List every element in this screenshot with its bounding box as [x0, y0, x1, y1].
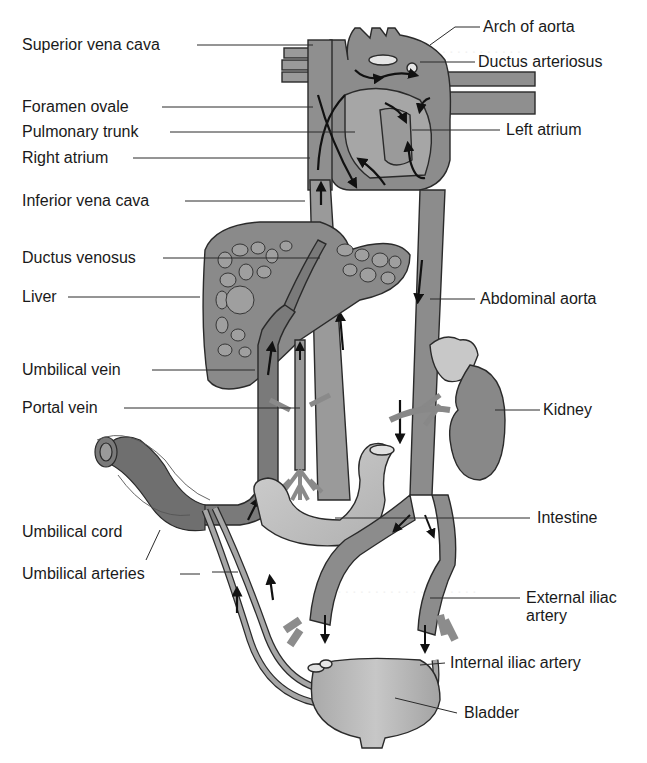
label-bladder: Bladder: [464, 704, 519, 722]
fetal-circulation-diagram: through a valve . . . . . . . . . . . . …: [0, 0, 647, 763]
label-portal-vein: Portal vein: [22, 399, 98, 417]
umbilical-cord-structure: [95, 436, 210, 561]
label-umbilical-cord: Umbilical cord: [22, 523, 122, 541]
kidney-organ: [390, 337, 505, 480]
label-left-atrium: Left atrium: [506, 121, 582, 139]
label-pulmonary-trunk: Pulmonary trunk: [22, 123, 139, 141]
label-liver: Liver: [22, 288, 57, 306]
liver-organ: [203, 222, 410, 389]
label-umbilical-vein: Umbilical vein: [22, 361, 121, 379]
label-foramen-ovale: Foramen ovale: [22, 98, 129, 116]
label-umbilical-arteries: Umbilical arteries: [22, 565, 145, 583]
label-intestine: Intestine: [537, 509, 597, 527]
label-inferior-vena-cava: Inferior vena cava: [22, 192, 149, 210]
label-kidney: Kidney: [543, 401, 592, 419]
label-right-atrium: Right atrium: [22, 149, 108, 167]
bladder-organ: [308, 658, 440, 748]
label-ductus-venosus: Ductus venosus: [22, 249, 136, 267]
label-superior-vena-cava: Superior vena cava: [22, 36, 160, 54]
label-internal-iliac-artery: Internal iliac artery: [450, 654, 581, 672]
label-external-iliac-artery: External iliac artery: [526, 589, 636, 625]
label-ductus-arteriosus: Ductus arteriosus: [478, 53, 603, 71]
label-arch-of-aorta: Arch of aorta: [483, 18, 575, 36]
label-abdominal-aorta: Abdominal aorta: [480, 290, 597, 308]
